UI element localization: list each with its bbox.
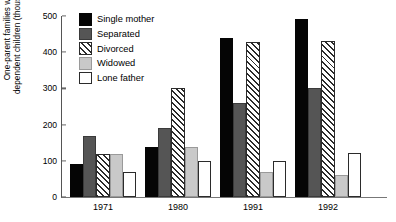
bar-1992-lone-father [348,153,361,197]
legend-label-single-mother: Single mother [97,14,154,24]
bar-1980-divorced [171,88,184,197]
legend-label-widowed: Widowed [97,58,135,68]
y-axis-tick [62,52,66,53]
x-axis-tick-label-1991: 1991 [243,202,263,212]
y-axis-tick-label: 300 [43,83,57,93]
legend-label-lone-father: Lone father [97,73,144,83]
legend: Single mother Separated Divorced Widowed… [79,13,154,84]
y-axis-tick-label: 200 [43,120,57,130]
y-axis-tick [62,88,66,89]
legend-label-divorced: Divorced [97,44,134,54]
bar-1992-widowed [335,175,348,197]
bar-1980-lone-father [198,161,211,197]
y-axis-tick [62,160,66,161]
y-axis-tick [62,196,66,197]
bar-1980-widowed [185,147,198,197]
y-axis-title-line1: One-parent families with [3,0,14,94]
bar-1980-separated [158,128,171,197]
legend-label-separated: Separated [97,29,140,39]
bar-1971-single-mother [70,164,83,197]
bar-1971-divorced [96,154,109,197]
bar-1991-single-mother [220,38,233,197]
legend-swatch-widowed [79,57,92,70]
legend-swatch-single-mother [79,13,92,26]
legend-item-separated: Separated [79,28,154,41]
bar-1992-divorced [321,41,334,197]
y-axis-tick-label: 500 [43,11,57,21]
bar-1971-lone-father [123,172,136,197]
bar-group-1992 [295,16,361,197]
y-axis-tick-label: 100 [43,156,57,166]
legend-item-lone-father: Lone father [79,72,154,85]
legend-swatch-lone-father [79,72,92,85]
y-axis-tick [62,124,66,125]
bar-1991-divorced [246,42,259,197]
x-axis-tick-label-1992: 1992 [318,202,338,212]
bar-1991-widowed [260,172,273,197]
bar-1991-lone-father [273,161,286,197]
bar-1992-single-mother [295,19,308,197]
y-axis-tick-label: 0 [52,192,57,202]
legend-swatch-divorced [79,42,92,55]
y-axis-tick [62,15,66,16]
bar-1971-widowed [110,154,123,197]
bar-1991-separated [233,103,246,197]
x-axis-tick-label-1971: 1971 [93,202,113,212]
bar-1971-separated [83,136,96,197]
y-axis-title: One-parent families with dependent child… [0,0,28,126]
bar-1980-single-mother [145,147,158,197]
bar-chart: One-parent families with dependent child… [0,0,396,222]
y-axis-tick-label: 400 [43,47,57,57]
bar-group-1980 [145,16,211,197]
bar-1992-separated [308,88,321,197]
bar-group-1991 [220,16,286,197]
y-axis-title-line2: dependent children (thousands) [13,0,24,94]
legend-item-widowed: Widowed [79,57,154,70]
legend-item-single-mother: Single mother [79,13,154,26]
legend-item-divorced: Divorced [79,42,154,55]
x-axis-tick-label-1980: 1980 [168,202,188,212]
legend-swatch-separated [79,28,92,41]
